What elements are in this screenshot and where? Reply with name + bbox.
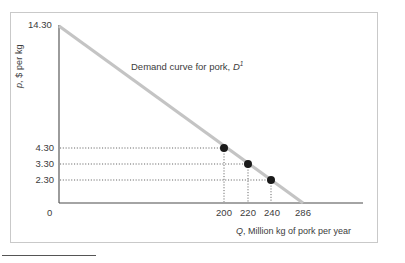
x-axis-tick-220: 220 <box>235 208 261 218</box>
footnote-rule <box>2 255 96 256</box>
demand-curve-annotation: Demand curve for pork, D1 <box>131 62 243 72</box>
x-axis-tick-286: 286 <box>290 208 316 218</box>
y-axis-title: p, $ per kg <box>14 44 24 88</box>
demand-curve-line <box>59 26 303 203</box>
axis-origin-label: 0 <box>47 208 52 218</box>
x-axis-symbol: Q <box>236 226 243 236</box>
figure-container: p, $ per kg 14.30 4.30 3.30 2.30 0 200 2… <box>0 0 405 263</box>
y-axis-tick-1430: 14.30 <box>28 20 52 30</box>
x-axis-tick-240: 240 <box>259 208 285 218</box>
data-point-220-330 <box>244 160 252 168</box>
demand-curve-plot <box>0 0 405 263</box>
data-point-200-430 <box>220 144 228 152</box>
x-axis-title: Q, Million kg of pork per year <box>236 226 351 236</box>
y-axis-tick-230: 2.30 <box>24 175 54 185</box>
y-axis-tick-430: 4.30 <box>24 143 54 153</box>
data-point-240-230 <box>267 176 275 184</box>
y-axis-symbol: p <box>14 83 24 88</box>
demand-curve-superscript: 1 <box>240 60 244 67</box>
x-axis-unit: , Million kg of pork per year <box>243 226 351 236</box>
y-axis-tick-330: 3.30 <box>24 159 54 169</box>
x-axis-tick-200: 200 <box>211 208 237 218</box>
demand-curve-annotation-prefix: Demand curve for pork, <box>131 61 233 72</box>
demand-curve-symbol: D <box>233 61 240 72</box>
y-axis-unit: , $ per kg <box>14 44 24 83</box>
